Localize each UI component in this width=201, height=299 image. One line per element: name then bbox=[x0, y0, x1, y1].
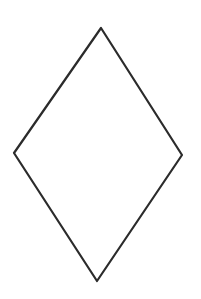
drawing-canvas bbox=[0, 0, 201, 299]
diamond-diagram bbox=[0, 0, 201, 299]
diamond-shape bbox=[14, 28, 182, 281]
